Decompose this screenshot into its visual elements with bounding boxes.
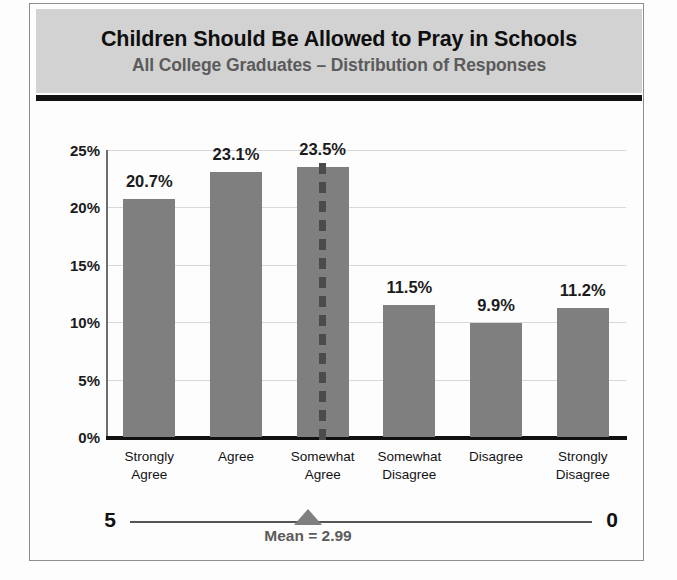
- mean-marker-triangle-icon: [294, 509, 322, 525]
- scale-right-label: 0: [598, 508, 626, 532]
- bar-value-label: 9.9%: [477, 296, 515, 315]
- chart-page: Children Should Be Allowed to Pray in Sc…: [0, 0, 677, 580]
- bar: [557, 308, 609, 437]
- bar: [470, 323, 522, 437]
- bars-layer: 20.7%StronglyAgree23.1%Agree23.5%Somewha…: [0, 0, 677, 580]
- bar-value-label: 11.5%: [386, 278, 432, 297]
- bar-chart: 0%5%10%15%20%25% 20.7%StronglyAgree23.1%…: [0, 0, 677, 580]
- bar-value-label: 20.7%: [126, 172, 173, 191]
- bar: [123, 199, 175, 437]
- bar-value-label: 11.2%: [560, 281, 606, 300]
- mean-value-label: Mean = 2.99: [228, 527, 388, 545]
- mean-dashed-line: [319, 163, 326, 443]
- bar: [210, 172, 262, 437]
- bar-value-label: 23.1%: [213, 145, 260, 164]
- bar: [383, 305, 435, 437]
- mean-scale-line: [130, 521, 592, 523]
- x-axis-category-label: StronglyDisagree: [528, 448, 638, 484]
- scale-left-label: 5: [96, 508, 124, 532]
- bar-value-label: 23.5%: [299, 140, 346, 159]
